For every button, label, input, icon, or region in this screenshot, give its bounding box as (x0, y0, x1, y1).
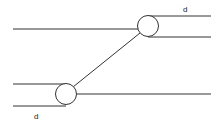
bottom-circle-node (56, 84, 77, 105)
bottom-d-label: d (34, 112, 38, 121)
labels-group: d d (34, 5, 187, 121)
diagonal-connector (73, 33, 140, 87)
top-d-label: d (183, 5, 187, 14)
diagram-canvas: d d (0, 0, 221, 125)
lines-group (13, 16, 211, 106)
diagram-svg: d d (0, 0, 221, 125)
top-circle-node (138, 16, 159, 37)
